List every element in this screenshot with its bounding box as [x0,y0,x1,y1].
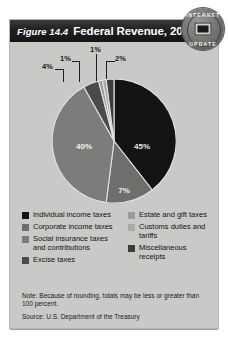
figure-number: Figure 14.4 [17,26,68,37]
bottom-divider [10,329,218,330]
legend-item-miscellaneous-receipts[interactable]: Miscellaneous receipts [128,243,210,261]
legend-column-left: Individual income taxes Corporate income… [22,210,121,264]
legend-label: Miscellaneous receipts [139,243,210,261]
source-note: Source: U.S. Department of the Treasury [22,313,208,321]
chart-area: 4% 1% 1% 2% [10,42,218,214]
legend-label: Excise taxes [33,255,75,264]
legend-swatch-icon [128,245,135,252]
monitor-icon [195,23,212,36]
legend-label: Individual income taxes [33,210,111,219]
pie-label-corporate: 7% [118,186,130,195]
legend-item-individual-income-taxes[interactable]: Individual income taxes [22,210,121,219]
footnotes: Note: Because of rounding, totals may be… [22,292,208,321]
legend-swatch-icon [22,236,29,243]
legend-item-estate-and-gift-taxes[interactable]: Estate and gift taxes [128,210,210,219]
legend-item-customs-duties-and-tariffs[interactable]: Customs duties and tariffs [128,222,210,240]
legend-swatch-icon [128,212,135,219]
rounding-note: Note: Because of rounding, totals may be… [22,292,208,308]
figure-panel: Figure 14.4 Federal Revenue, 2003 INTERN… [10,20,218,328]
page-title: Federal Revenue, 2003 [73,25,195,37]
legend-swatch-icon [128,224,135,231]
callout-excise: 4% [42,62,53,71]
callout-miscellaneous: 2% [115,54,126,63]
legend-item-social-insurance-taxes[interactable]: Social insurance taxes and contributions [22,234,121,252]
pie-label-individual: 45% [134,142,150,151]
pie-chart: 45% 40% 7% [52,79,176,203]
legend-item-excise-taxes[interactable]: Excise taxes [22,255,121,264]
legend-column-right: Estate and gift taxes Customs duties and… [128,210,210,264]
legend-label: Customs duties and tariffs [139,222,210,240]
leader-misc-h [106,61,115,62]
leader-customs-v [96,54,97,82]
pie-svg: 45% 40% 7% [52,79,176,203]
legend-label: Corporate income taxes [33,222,113,231]
legend-label: Social insurance taxes and contributions [33,234,121,252]
legend-swatch-icon [22,224,29,231]
legend-item-corporate-income-taxes[interactable]: Corporate income taxes [22,222,121,231]
callout-customs: 1% [90,45,101,54]
legend-label: Estate and gift taxes [139,210,207,219]
legend: Individual income taxes Corporate income… [22,210,210,264]
figure-title-bar: Figure 14.4 Federal Revenue, 2003 INTERN… [10,20,218,42]
legend-swatch-icon [22,257,29,264]
pie-label-social-insurance: 40% [76,142,92,151]
callout-estate: 1% [60,54,71,63]
seal-top-word: INTERNET [182,12,224,18]
legend-swatch-icon [22,212,29,219]
